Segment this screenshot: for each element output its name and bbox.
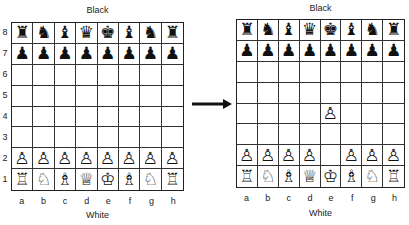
black-knight-icon: ♞ <box>143 24 158 41</box>
white-pawn-icon: ♙ <box>79 150 94 167</box>
white-pawn-icon: ♙ <box>302 147 317 164</box>
square-g6 <box>140 65 161 86</box>
square-a3 <box>237 124 258 145</box>
square-h1: ♖ <box>162 169 183 190</box>
square-d3 <box>76 127 97 148</box>
black-pawn-icon: ♟ <box>239 42 254 59</box>
rank-label-7: 7 <box>0 48 10 58</box>
square-d7: ♟ <box>76 44 97 65</box>
square-e6 <box>321 62 342 83</box>
square-c3 <box>279 124 300 145</box>
square-c1: ♗ <box>279 166 300 187</box>
white-rook-icon: ♖ <box>239 168 254 185</box>
square-g7: ♟ <box>140 44 161 65</box>
square-h3 <box>383 124 404 145</box>
black-label: Black <box>236 3 405 13</box>
square-f1: ♗ <box>119 169 140 190</box>
rank-label-2: 2 <box>0 153 10 163</box>
square-a5 <box>12 86 33 107</box>
square-f5 <box>341 83 362 104</box>
black-pawn-icon: ♟ <box>302 42 317 59</box>
square-f5 <box>119 86 140 107</box>
square-f1: ♗ <box>341 166 362 187</box>
square-f2: ♙ <box>341 145 362 166</box>
square-b3 <box>258 124 279 145</box>
square-f8: ♝ <box>341 20 362 41</box>
file-label-f: f <box>342 193 363 203</box>
square-b8: ♞ <box>258 20 279 41</box>
rank-label-1: 1 <box>0 174 10 184</box>
square-a1: ♖ <box>237 166 258 187</box>
square-a2: ♙ <box>12 148 33 169</box>
square-c6 <box>55 65 76 86</box>
square-b4 <box>258 104 279 125</box>
square-h5 <box>383 83 404 104</box>
square-f8: ♝ <box>119 23 140 44</box>
square-d2: ♙ <box>300 145 321 166</box>
file-label-c: c <box>278 193 299 203</box>
square-b6 <box>33 65 54 86</box>
square-a7: ♟ <box>12 44 33 65</box>
white-pawn-icon: ♙ <box>323 105 338 122</box>
square-c5 <box>55 86 76 107</box>
file-label-g: g <box>363 193 384 203</box>
white-label: White <box>236 208 405 218</box>
white-pawn-icon: ♙ <box>365 147 380 164</box>
square-h6 <box>383 62 404 83</box>
white-knight-icon: ♘ <box>260 168 275 185</box>
black-pawn-icon: ♟ <box>281 42 296 59</box>
white-bishop-icon: ♗ <box>344 168 359 185</box>
white-pawn-icon: ♙ <box>260 147 275 164</box>
black-knight-icon: ♞ <box>36 24 51 41</box>
square-h6 <box>162 65 183 86</box>
square-d7: ♟ <box>300 41 321 62</box>
white-bishop-icon: ♗ <box>121 171 136 188</box>
square-h4 <box>383 104 404 125</box>
white-bishop-icon: ♗ <box>57 171 72 188</box>
square-f6 <box>119 65 140 86</box>
square-h8: ♜ <box>383 20 404 41</box>
square-g4 <box>140 107 161 128</box>
square-a8: ♜ <box>237 20 258 41</box>
file-label-b: b <box>33 196 55 206</box>
file-label-h: h <box>384 193 405 203</box>
white-pawn-icon: ♙ <box>15 150 30 167</box>
black-pawn-icon: ♟ <box>323 42 338 59</box>
white-queen-icon: ♕ <box>302 168 317 185</box>
square-h1: ♖ <box>383 166 404 187</box>
chess-board-after: ♜♞♝♛♚♝♞♜♟♟♟♟♟♟♟♟♙♙♙♙♙♙♙♙♖♘♗♕♔♗♘♖ <box>236 19 405 188</box>
square-d5 <box>300 83 321 104</box>
square-c6 <box>279 62 300 83</box>
rank-label-3: 3 <box>0 132 10 142</box>
white-knight-icon: ♘ <box>36 171 51 188</box>
square-e2 <box>321 145 342 166</box>
square-h3 <box>162 127 183 148</box>
white-pawn-icon: ♙ <box>344 147 359 164</box>
black-pawn-icon: ♟ <box>100 45 115 62</box>
square-c4 <box>55 107 76 128</box>
square-d6 <box>76 65 97 86</box>
file-label-b: b <box>257 193 278 203</box>
file-label-h: h <box>162 196 184 206</box>
square-b5 <box>258 83 279 104</box>
square-d6 <box>300 62 321 83</box>
white-pawn-icon: ♙ <box>281 147 296 164</box>
black-pawn-icon: ♟ <box>165 45 180 62</box>
black-label: Black <box>11 5 184 15</box>
square-d8: ♛ <box>76 23 97 44</box>
square-b7: ♟ <box>258 41 279 62</box>
white-pawn-icon: ♙ <box>165 150 180 167</box>
file-label-a: a <box>236 193 257 203</box>
file-label-a: a <box>11 196 33 206</box>
white-pawn-icon: ♙ <box>239 147 254 164</box>
square-a3 <box>12 127 33 148</box>
black-queen-icon: ♛ <box>302 21 317 38</box>
square-c4 <box>279 104 300 125</box>
square-e1: ♔ <box>98 169 119 190</box>
square-g2: ♙ <box>362 145 383 166</box>
black-rook-icon: ♜ <box>165 24 180 41</box>
square-g1: ♘ <box>362 166 383 187</box>
chess-board-before: ♜♞♝♛♚♝♞♜♟♟♟♟♟♟♟♟♙♙♙♙♙♙♙♙♖♘♗♕♔♗♘♖ <box>11 22 184 191</box>
square-h2: ♙ <box>383 145 404 166</box>
square-d5 <box>76 86 97 107</box>
